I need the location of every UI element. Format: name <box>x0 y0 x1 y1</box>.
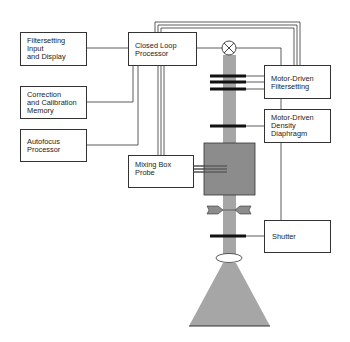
box-label-line: Processor <box>27 146 86 154</box>
lamp-icon <box>222 41 236 55</box>
mixing-box-probe-box: Mixing Box Probe <box>128 155 194 188</box>
motor-driven-filtersetting-box: Motor-Driven Filtersetting <box>264 65 331 99</box>
box-label-line: Memory <box>27 107 86 115</box>
motor-driven-density-diaphragm-box: Motor-Driven Density Diaphragm <box>264 109 331 143</box>
lens-icon <box>216 254 242 263</box>
closed-loop-processor-box: Closed Loop Processor <box>128 32 197 66</box>
density-diaphragm-bar <box>210 125 246 128</box>
filtersetting-input-box: Filtersetting Input and Display <box>20 32 87 66</box>
filter-bars <box>210 75 246 91</box>
shutter-blade <box>210 235 246 238</box>
shutter-box: Shutter <box>264 220 331 253</box>
box-label-line: Shutter <box>272 233 330 241</box>
box-label-line: Filtersetting <box>271 83 330 91</box>
box-label-line: Processor <box>135 50 196 58</box>
autofocus-processor-box: Autofocus Processor <box>20 129 87 162</box>
box-label-line: and Display <box>27 53 86 61</box>
correction-calibration-memory-box: Correction and Calibration Memory <box>20 86 87 119</box>
box-label-line: Probe <box>135 169 193 177</box>
box-label-line: Diaphragm <box>271 130 330 138</box>
light-cone <box>189 263 270 326</box>
